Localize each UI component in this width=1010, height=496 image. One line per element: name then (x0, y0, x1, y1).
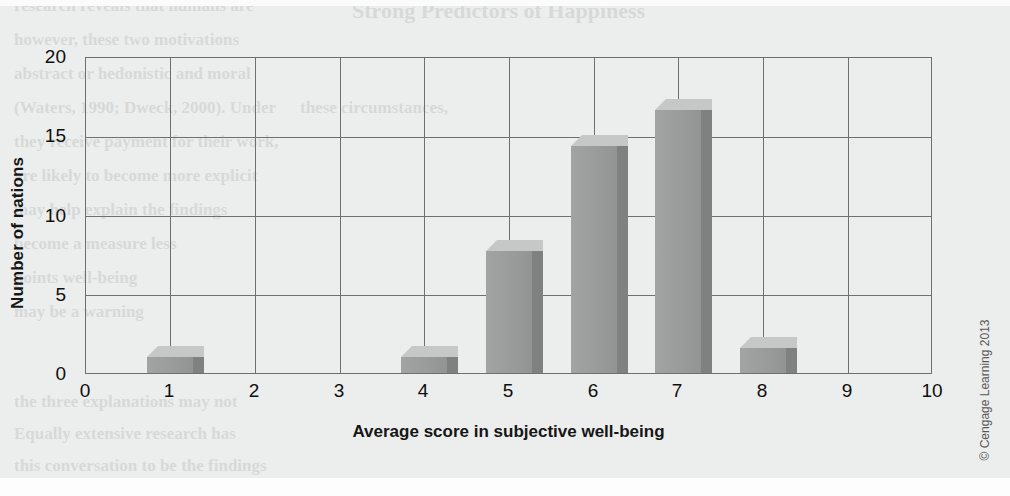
copyright-notice: © Cengage Learning 2013 (975, 300, 995, 480)
bar-front-face (571, 146, 617, 373)
y-axis-title: Number of nations (6, 118, 30, 348)
x-tick-label: 10 (907, 380, 957, 402)
bar-front-face (401, 357, 447, 373)
bar-front-face (740, 348, 786, 373)
y-tick-label: 20 (26, 46, 66, 68)
bar-side-face (193, 357, 204, 373)
x-tick-label: 2 (229, 380, 279, 402)
x-tick-label: 9 (822, 380, 872, 402)
bar-front-face (486, 251, 532, 373)
x-tick-label: 8 (737, 380, 787, 402)
plot-area (85, 57, 932, 374)
y-tick-label: 15 (26, 125, 66, 147)
x-tick-label: 7 (652, 380, 702, 402)
bar-side-face (701, 110, 712, 373)
gridline-vertical (170, 58, 171, 373)
bar-top-right (786, 337, 797, 348)
bar-side-face (447, 357, 458, 373)
gridline-vertical (424, 58, 425, 373)
x-tick-label: 0 (60, 380, 110, 402)
bar-side-face (617, 146, 628, 373)
bar-top-right (701, 99, 712, 110)
y-tick-label: 10 (26, 205, 66, 227)
bar-chart-figure: Number of nations 20 15 10 5 0 (0, 0, 1010, 496)
bar-top-right (617, 135, 628, 146)
bar-side-face (532, 251, 543, 373)
y-tick-label: 5 (26, 284, 66, 306)
copyright-text: © Cengage Learning 2013 (978, 320, 992, 461)
gridline-vertical (255, 58, 256, 373)
bar-front-face (147, 357, 193, 373)
x-tick-label: 6 (568, 380, 618, 402)
x-axis-title: Average score in subjective well-being (85, 422, 932, 442)
x-tick-label: 5 (483, 380, 533, 402)
x-tick-label: 4 (398, 380, 448, 402)
gridline-vertical (848, 58, 849, 373)
x-tick-label: 1 (144, 380, 194, 402)
x-tick-label: 3 (314, 380, 364, 402)
bar-top-right (193, 346, 204, 357)
bar-front-face (655, 110, 701, 373)
gridline-vertical (340, 58, 341, 373)
bar-side-face (786, 348, 797, 373)
y-axis-title-text: Number of nations (8, 157, 28, 309)
gridline-vertical (763, 58, 764, 373)
bar-top-right (532, 240, 543, 251)
bar-top-right (447, 346, 458, 357)
